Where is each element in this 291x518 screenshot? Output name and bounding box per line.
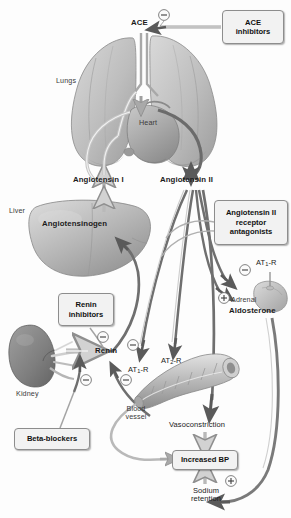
- label-angiotensin-ii: Angiotensin II: [160, 176, 213, 185]
- increased-bp-box[interactable]: Increased BP: [172, 450, 238, 470]
- ace-inhibitors-line-2: inhibitors: [236, 27, 271, 36]
- renin-inhibitors-box[interactable]: Renin inhibitors: [58, 293, 114, 326]
- blood-vessel-illustration: [133, 354, 242, 409]
- beta-blocker-connector: [60, 362, 91, 428]
- label-ace: ACE: [131, 19, 148, 28]
- sodium-retention-line-2: retention: [191, 494, 221, 503]
- beta-blockers-label: Beta-blockers: [27, 434, 77, 443]
- label-at1r-vessel: AT1-R: [128, 366, 149, 374]
- label-kidney: Kidney: [16, 390, 39, 398]
- ace-inhibitors-line-1: ACE: [245, 18, 261, 27]
- label-sodium-retention: Sodium retention: [178, 487, 234, 504]
- ace-inhibitor-connector: [153, 10, 221, 29]
- aldosterone-to-sodium-loop: [216, 318, 278, 502]
- label-adrenal: Adrenal: [231, 296, 256, 304]
- label-liver: Liver: [9, 207, 25, 215]
- blood-vessel-line-2: vessel: [126, 412, 147, 421]
- label-blood-vessel: Blood vessel: [118, 405, 154, 421]
- arb-line-2: receptor: [236, 218, 266, 227]
- arb-line-3: antagonists: [230, 227, 273, 236]
- at1r-vessel-suffix: -R: [140, 365, 148, 374]
- renin-inhibitors-line-1: Renin: [75, 300, 96, 309]
- increased-bp-label: Increased BP: [181, 455, 229, 464]
- arb-box[interactable]: Angiotensin II receptor antagonists: [214, 200, 288, 245]
- renin-inhibitor-connector: [90, 328, 108, 347]
- at1r-adrenal-suffix: -R: [268, 258, 276, 267]
- label-renin: Renin: [95, 347, 117, 356]
- label-angiotensin-i: Angiotensin I: [73, 176, 124, 185]
- at2r-vessel-suffix: -R: [173, 356, 181, 365]
- at1r-adrenal-prefix: AT: [256, 258, 265, 267]
- renin-inhibitors-line-2: inhibitors: [69, 310, 104, 319]
- label-vasoconstriction: Vasoconstriction: [169, 421, 225, 429]
- label-at1r-adrenal: AT1-R: [256, 259, 277, 267]
- label-aldosterone: Aldosterone: [229, 307, 276, 316]
- liver-illustration: [29, 200, 151, 276]
- label-angiotensinogen: Angiotensinogen: [42, 220, 107, 229]
- label-at2r-vessel: AT2-R: [161, 357, 182, 365]
- at1r-vessel-prefix: AT: [128, 365, 137, 374]
- label-heart: Heart: [139, 119, 157, 127]
- label-lungs: Lungs: [56, 77, 76, 85]
- at2r-vessel-prefix: AT: [161, 356, 170, 365]
- rass-pathway-diagram: ACE Lungs Heart Angiotensin I Angiotensi…: [0, 0, 291, 518]
- arb-line-1: Angiotensin II: [226, 208, 276, 217]
- kidney-illustration: [9, 325, 76, 387]
- ace-inhibitors-box[interactable]: ACE inhibitors: [222, 10, 284, 44]
- beta-blockers-box[interactable]: Beta-blockers: [14, 428, 90, 450]
